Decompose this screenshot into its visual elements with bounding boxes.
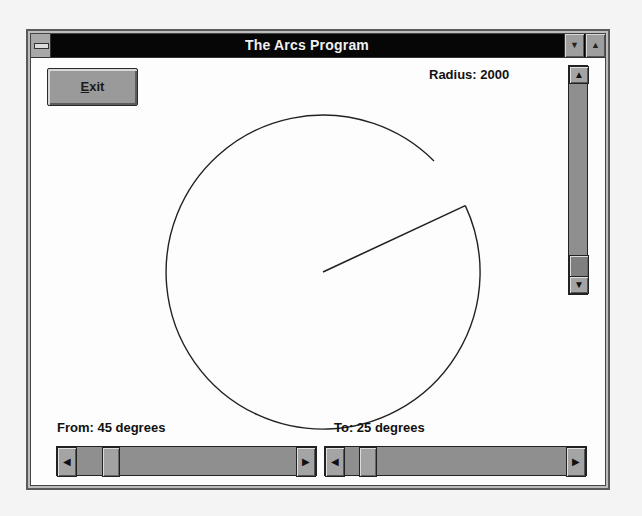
arrow-left-icon: ◀ <box>63 456 71 467</box>
radius-scroll-up-button[interactable]: ▲ <box>569 66 589 84</box>
exit-mnemonic: E <box>81 79 90 94</box>
from-scroll-left-button[interactable]: ◀ <box>57 447 77 477</box>
to-scrollbar[interactable]: ◀ ▶ <box>324 446 587 476</box>
arc-radius-line <box>323 206 465 272</box>
exit-button[interactable]: Exit <box>47 68 138 106</box>
arc-drawing <box>166 115 480 429</box>
minimize-button[interactable]: ▼ <box>564 34 584 57</box>
arrow-right-icon: ▶ <box>302 456 310 467</box>
arrow-left-icon: ◀ <box>331 456 339 467</box>
arrow-right-icon: ▶ <box>572 456 580 467</box>
system-menu-icon <box>34 43 49 49</box>
to-scroll-right-button[interactable]: ▶ <box>566 447 586 477</box>
exit-label: xit <box>89 79 104 94</box>
maximize-icon: ▲ <box>591 40 600 50</box>
window-title: The Arcs Program <box>51 34 563 57</box>
arrow-down-icon: ▼ <box>574 279 584 290</box>
to-label: To: 25 degrees <box>334 420 425 435</box>
radius-scrollbar[interactable]: ▲ ▼ <box>568 65 588 295</box>
to-scroll-thumb[interactable] <box>359 447 377 477</box>
from-scroll-right-button[interactable]: ▶ <box>296 447 316 477</box>
radius-label: Radius: 2000 <box>429 67 509 82</box>
maximize-button[interactable]: ▲ <box>585 34 605 57</box>
arcs-program-window: The Arcs Program ▼ ▲ Exit Radius: 2000 F… <box>26 29 610 490</box>
radius-scroll-thumb[interactable] <box>569 255 589 278</box>
radius-scroll-down-button[interactable]: ▼ <box>569 276 589 294</box>
from-scrollbar[interactable]: ◀ ▶ <box>56 446 317 476</box>
to-scroll-left-button[interactable]: ◀ <box>325 447 345 477</box>
from-label: From: 45 degrees <box>57 420 165 435</box>
arrow-up-icon: ▲ <box>574 69 584 80</box>
system-menu-button[interactable] <box>31 34 51 57</box>
from-scroll-thumb[interactable] <box>102 447 120 477</box>
title-bar[interactable]: The Arcs Program ▼ ▲ <box>31 34 605 58</box>
minimize-icon: ▼ <box>570 40 579 50</box>
